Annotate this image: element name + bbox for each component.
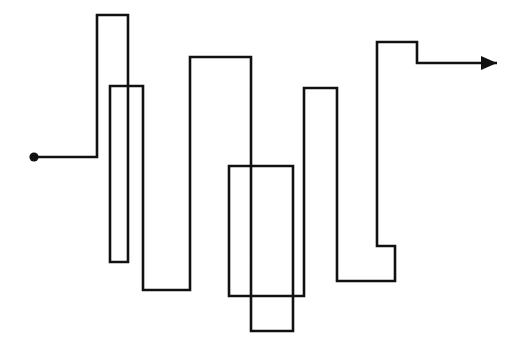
diagram-canvas [0, 0, 522, 358]
zigzag-path-figure [0, 0, 522, 358]
canvas-background [0, 0, 522, 358]
start-point-dot [29, 152, 38, 161]
